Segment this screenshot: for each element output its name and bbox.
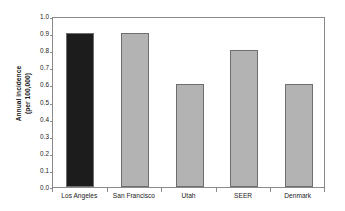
x-axis-tick-label: Denmark [284, 192, 311, 200]
x-axis-tick-label: San Francisco [113, 192, 155, 200]
plot-inner [53, 18, 324, 187]
bar-san-francisco [121, 33, 149, 187]
bar-seer [230, 50, 258, 187]
y-axis-tick-mark [50, 121, 53, 122]
y-axis-tick-label: 1.0 [30, 14, 49, 20]
plot-area [52, 17, 325, 188]
bar-denmark [285, 84, 313, 187]
y-axis-tick-mark [50, 18, 53, 19]
y-axis-tick-mark [50, 69, 53, 70]
y-axis-tick-label: 0.8 [30, 48, 49, 54]
y-axis-tick-mark [50, 52, 53, 53]
x-axis-tick-labels: Los AngelesSan FranciscoUtahSEERDenmark [52, 192, 325, 206]
x-axis-tick-label: Los Angeles [61, 192, 97, 200]
x-axis-tick-mark [107, 188, 108, 192]
x-axis-tick-mark [324, 188, 325, 192]
bar-utah [176, 84, 204, 187]
y-axis-tick-label: 0.9 [30, 31, 49, 37]
x-axis-tick-mark [270, 188, 271, 192]
x-axis-tick-label: SEER [234, 192, 252, 200]
y-axis-title-line-1: Annual incidence [15, 66, 24, 121]
x-axis-tick-mark [161, 188, 162, 192]
x-axis-tick-label: Utah [182, 192, 196, 200]
bar-los-angeles [66, 33, 94, 187]
y-axis-tick-label: 0.5 [30, 99, 49, 105]
y-axis-tick-label: 0.4 [30, 116, 49, 122]
y-axis-tick-mark [50, 172, 53, 173]
y-axis-tick-mark [50, 155, 53, 156]
bar-chart-figure: Annual incidence (per 100,000) 0.00.10.2… [0, 0, 345, 211]
y-axis-tick-label: 0.7 [30, 65, 49, 71]
x-axis-tick-mark [52, 188, 53, 192]
y-axis-tick-labels: 0.00.10.20.30.40.50.60.70.80.91.0 [30, 17, 49, 188]
y-axis-tick-mark [50, 138, 53, 139]
y-axis-tick-label: 0.2 [30, 151, 49, 157]
y-axis-tick-mark [50, 35, 53, 36]
x-axis-tick-mark [216, 188, 217, 192]
y-axis-tick-mark [50, 104, 53, 105]
y-axis-tick-label: 0.3 [30, 133, 49, 139]
y-axis-tick-label: 0.0 [30, 185, 49, 191]
y-axis-tick-label: 0.6 [30, 82, 49, 88]
y-axis-tick-mark [50, 86, 53, 87]
y-axis-tick-label: 0.1 [30, 168, 49, 174]
